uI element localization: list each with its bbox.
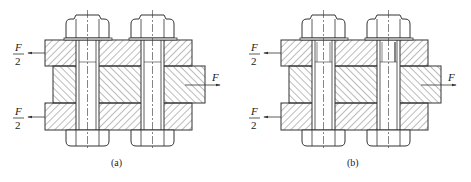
force-top-left-denominator: 2 (251, 55, 257, 67)
caption-b: (b) (347, 157, 359, 169)
force-bottom-left-numerator: F (14, 105, 22, 117)
panel-a: F 2 F 2 F (a) (13, 10, 220, 169)
force-top-left-denominator: 2 (15, 55, 21, 67)
force-right-label: F (211, 71, 219, 83)
bolted-joint-diagram: F 2 F 2 F (a) F 2 F 2 F (b) (0, 0, 471, 182)
force-top-left-numerator: F (14, 41, 22, 53)
force-bottom-left-denominator: 2 (15, 119, 21, 131)
force-right-label: F (447, 71, 455, 83)
panel-b: F 2 F 2 F (b) (249, 10, 456, 169)
caption-a: (a) (111, 157, 122, 169)
force-bottom-left-numerator: F (250, 105, 258, 117)
force-bottom-left-denominator: 2 (251, 119, 257, 131)
force-top-left-numerator: F (250, 41, 258, 53)
